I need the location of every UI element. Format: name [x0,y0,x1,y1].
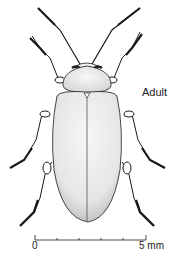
scale-bar [35,235,146,240]
scale-end-label: 5 mm [139,240,164,251]
pronotum [63,66,111,93]
scale-start-label: 0 [32,240,38,251]
beetle-illustration [0,0,175,256]
stage-label: Adult [142,86,167,98]
